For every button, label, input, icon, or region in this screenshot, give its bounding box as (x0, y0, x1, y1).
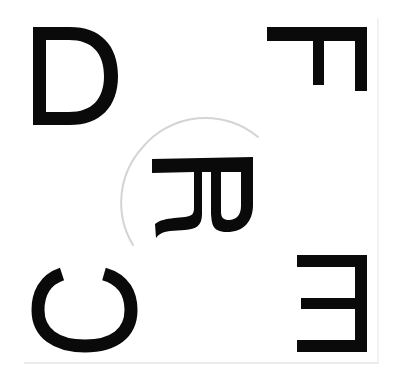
letter-c (38, 274, 131, 346)
letter-r (152, 157, 253, 238)
letter-e-mirrored (297, 255, 367, 352)
paper-sheet: D F R C E (0, 0, 402, 380)
letter-f (267, 27, 367, 91)
letter-d (33, 27, 118, 125)
letters-canvas (0, 0, 402, 380)
